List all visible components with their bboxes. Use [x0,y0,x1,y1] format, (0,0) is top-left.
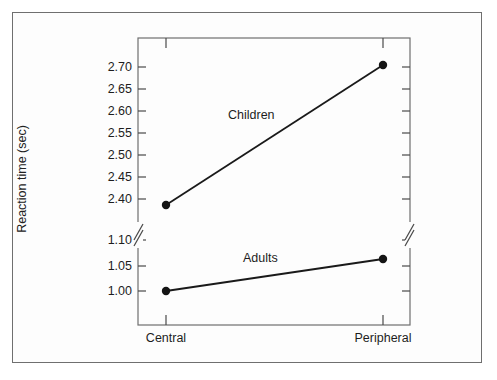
series-line-children [166,65,383,205]
data-point-children-central [162,201,170,209]
axis-break-right [405,222,414,248]
series-line-adults [166,259,383,291]
x-tick-marks [166,38,383,325]
axis-break-left [134,222,143,248]
y-tick-marks-right [402,67,410,291]
data-point-children-peripheral [379,61,387,69]
plot-svg [0,0,497,380]
data-point-adults-central [162,287,170,295]
plot-frame [138,38,410,325]
data-point-adults-peripheral [379,255,387,263]
y-tick-marks-left [138,67,146,291]
chart-area: Reaction time (sec) 2.70 2.65 2.60 2.55 … [0,0,497,380]
